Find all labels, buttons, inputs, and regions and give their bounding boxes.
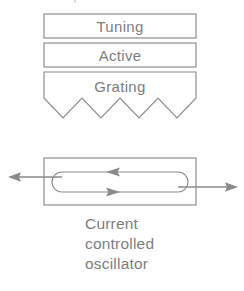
layer-active: Active <box>44 43 196 67</box>
caption-group: Current controlled oscillator <box>85 215 154 272</box>
layer-grating: Grating <box>44 72 196 118</box>
grating-layer-label: Grating <box>94 78 145 95</box>
output-arrow-right <box>178 182 238 192</box>
caption-line-2: controlled <box>85 235 154 252</box>
output-arrow-left <box>8 172 62 182</box>
active-layer-label: Active <box>99 47 142 64</box>
caption-line-1: Current <box>85 215 139 232</box>
oscillator-ring-loop <box>52 172 188 192</box>
oscillator-group <box>8 158 238 205</box>
oscillator-cavity-box <box>44 158 196 205</box>
tuning-layer-label: Tuning <box>96 18 143 35</box>
figure-root: Tuning Active Grating <box>0 0 244 291</box>
layer-tuning: Tuning <box>44 14 196 38</box>
layer-stack-group: Tuning Active Grating <box>44 14 196 118</box>
oscillator-diagram-svg: Tuning Active Grating <box>0 0 244 291</box>
caption-line-3: oscillator <box>85 255 148 272</box>
